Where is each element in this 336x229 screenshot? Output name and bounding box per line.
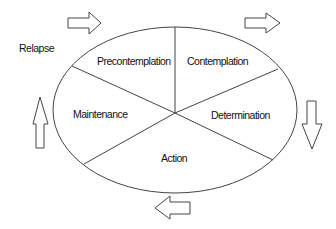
arrow-left-icon	[155, 196, 190, 219]
stage-maintenance: Maintenance	[73, 109, 128, 120]
segment-dividers	[72, 27, 278, 164]
stage-determination: Determination	[211, 110, 270, 121]
stage-action: Action	[161, 153, 187, 164]
arrow-down-icon	[302, 101, 322, 149]
arrow-right-icon	[68, 12, 101, 34]
stages-diagram	[0, 0, 336, 229]
arrow-up-icon	[33, 97, 48, 148]
label-relapse: Relapse	[19, 43, 54, 54]
stage-contemplation: Contemplation	[187, 56, 248, 67]
arrow-right-icon	[245, 13, 280, 33]
stage-precontemplation: Precontemplation	[97, 56, 171, 67]
